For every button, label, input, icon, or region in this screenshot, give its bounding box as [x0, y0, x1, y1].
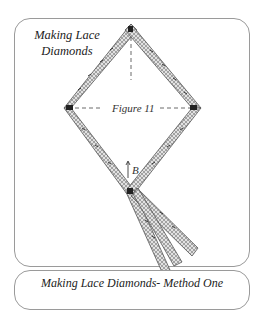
guide-lines — [68, 30, 198, 108]
b-marker — [126, 161, 130, 178]
figure-label: Figure 11 — [111, 102, 154, 114]
point-label-b: B — [132, 164, 139, 176]
lace-bands — [64, 24, 201, 272]
method-card: Making Lace Diamonds- Method One — [14, 270, 250, 310]
method-title: Making Lace Diamonds- Method One — [15, 276, 249, 291]
